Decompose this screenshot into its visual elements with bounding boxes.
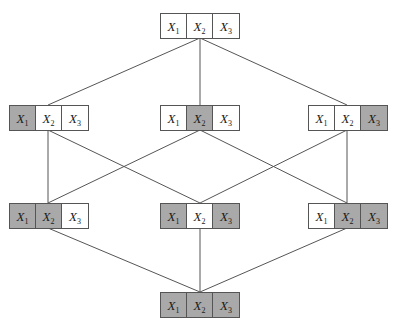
variable-label: X1 — [168, 20, 180, 33]
variable-label: X2 — [194, 112, 206, 125]
x1-x3-node: X1X2X3 — [160, 203, 240, 229]
full-set-node: X1X2X3 — [160, 292, 240, 318]
x2-x3-node: X1X2X3 — [308, 203, 388, 229]
variable-label: X1 — [316, 210, 328, 223]
variable-label: X1 — [17, 112, 29, 125]
x3-node-cell-3: X3 — [361, 106, 387, 130]
edge-low-right-to-bottom — [200, 228, 347, 292]
variable-label: X1 — [316, 112, 328, 125]
full-set-node-cell-3: X3 — [213, 293, 239, 317]
x2-x3-node-cell-2: X2 — [335, 204, 361, 228]
variable-label: X2 — [194, 20, 206, 33]
variable-label: X2 — [194, 299, 206, 312]
variable-label: X1 — [17, 210, 29, 223]
variable-label: X3 — [220, 20, 232, 33]
variable-label: X3 — [69, 210, 81, 223]
empty-set-node: X1X2X3 — [160, 13, 240, 39]
variable-label: X1 — [168, 210, 180, 223]
subset-lattice-diagram: X1X2X3X1X2X3X1X2X3X1X2X3X1X2X3X1X2X3X1X2… — [0, 0, 394, 328]
x2-node-cell-2: X2 — [187, 106, 213, 130]
edge-top-to-mid-right — [200, 38, 347, 105]
full-set-node-cell-1: X1 — [161, 293, 187, 317]
variable-label: X2 — [342, 210, 354, 223]
x3-node-cell-2: X2 — [335, 106, 361, 130]
x1-x3-node-cell-1: X1 — [161, 204, 187, 228]
x1-x2-node-cell-1: X1 — [10, 204, 36, 228]
full-set-node-cell-2: X2 — [187, 293, 213, 317]
variable-label: X1 — [168, 112, 180, 125]
x1-x2-node: X1X2X3 — [9, 203, 89, 229]
edge-top-to-mid-left — [48, 38, 200, 105]
variable-label: X3 — [220, 299, 232, 312]
x1-node-cell-3: X3 — [62, 106, 88, 130]
variable-label: X2 — [342, 112, 354, 125]
x3-node: X1X2X3 — [308, 105, 388, 131]
x1-x2-node-cell-3: X3 — [62, 204, 88, 228]
variable-label: X3 — [69, 112, 81, 125]
variable-label: X2 — [43, 210, 55, 223]
variable-label: X3 — [220, 210, 232, 223]
x1-node-cell-1: X1 — [10, 106, 36, 130]
x2-x3-node-cell-1: X1 — [309, 204, 335, 228]
empty-set-node-cell-2: X2 — [187, 14, 213, 38]
x2-node-cell-3: X3 — [213, 106, 239, 130]
x1-node: X1X2X3 — [9, 105, 89, 131]
x2-node: X1X2X3 — [160, 105, 240, 131]
edge-low-left-to-bottom — [48, 228, 200, 292]
x1-x3-node-cell-3: X3 — [213, 204, 239, 228]
x1-x3-node-cell-2: X2 — [187, 204, 213, 228]
variable-label: X2 — [43, 112, 55, 125]
variable-label: X3 — [220, 112, 232, 125]
variable-label: X1 — [168, 299, 180, 312]
x1-node-cell-2: X2 — [36, 106, 62, 130]
x1-x2-node-cell-2: X2 — [36, 204, 62, 228]
x2-x3-node-cell-3: X3 — [361, 204, 387, 228]
empty-set-node-cell-3: X3 — [213, 14, 239, 38]
x2-node-cell-1: X1 — [161, 106, 187, 130]
variable-label: X2 — [194, 210, 206, 223]
lattice-edge-layer — [0, 0, 394, 328]
x3-node-cell-1: X1 — [309, 106, 335, 130]
variable-label: X3 — [368, 210, 380, 223]
empty-set-node-cell-1: X1 — [161, 14, 187, 38]
variable-label: X3 — [368, 112, 380, 125]
